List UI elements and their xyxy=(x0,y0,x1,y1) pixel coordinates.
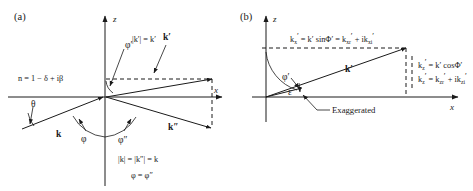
eq-kx-plus: + ik xyxy=(353,35,369,44)
panel-a-label: (a) xyxy=(14,11,26,23)
eq-kx-prime3: ′ xyxy=(372,32,374,41)
panel-a-phi-double-prime-arc xyxy=(105,117,136,137)
panel-a-reflected-ray xyxy=(106,97,211,128)
panel-a-phi-arc xyxy=(73,116,105,137)
panel-b-phi-prime-arc xyxy=(266,52,297,90)
eq-kx-mid: = k′ sinΦ′ = k xyxy=(299,35,347,44)
panel-a-reflected-vector-label: k″ xyxy=(168,122,179,132)
svg-text:kz′ = k′ cosΦ′: kz′ = k′ cosΦ′ xyxy=(418,58,462,71)
panel-a-note-k-magnitude: |k| = |k″| = k xyxy=(118,155,159,164)
panel-a-x-axis-label: x xyxy=(213,85,218,95)
panel-b-kprime-label: k′ xyxy=(345,64,353,74)
panel-b-exaggerated-label: Exaggerated xyxy=(332,105,376,115)
panel-a-z-axis-label: z xyxy=(112,14,117,24)
panel-b-x-axis-label: x xyxy=(449,102,454,112)
panel-a-theta-label: θ xyxy=(31,99,36,109)
panel-a-refractive-index-label: n = 1 − δ + iβ xyxy=(18,74,63,83)
panel-a-refracted-vector-label: k′ xyxy=(163,32,171,42)
panel-b-epsilon-ray xyxy=(266,88,302,97)
panel-a-phi-label: φ xyxy=(81,134,87,144)
panel-b-label: (b) xyxy=(240,11,253,23)
panel-a: (a) z x n = 1 − δ + iβ k θ k′ xyxy=(8,11,222,186)
panel-a-note-kprime-magnitude: |k′| = k′ xyxy=(132,35,156,44)
panel-a-incident-vector-label: k xyxy=(56,129,62,139)
panel-b-phi-prime-label: φ′ xyxy=(282,72,290,82)
figure-container: (a) z x n = 1 − δ + iβ k θ k′ xyxy=(0,0,473,191)
panel-a-theta-leader xyxy=(30,107,33,124)
eq-kz2-prime3: ′ xyxy=(465,72,467,81)
panel-b-eq-kz-1: kz′ = k′ cosΦ′ xyxy=(418,58,462,71)
panel-b-eq-kx: kx′ = k′ sinΦ′ = kxr′ + ikxi′ xyxy=(290,32,374,45)
figure-svg: (a) z x n = 1 − δ + iβ k θ k′ xyxy=(0,0,473,191)
panel-a-note-angle-equality: φ = φ″ xyxy=(131,171,153,180)
panel-b-epsilon-label: ε xyxy=(288,87,292,97)
eq-kz2-mid: = k xyxy=(426,75,440,84)
panel-b: (b) z x k′ φ′ ε Exagger xyxy=(240,11,467,122)
panel-a-phi-prime-arc xyxy=(106,81,113,93)
panel-a-refracted-ray xyxy=(106,79,212,97)
panel-b-epsilon-arrow xyxy=(299,83,300,92)
eq-kz2-plus: + ik xyxy=(446,75,462,84)
panel-b-eq-kz-2: kz′ = kzr′ + ikzi′ xyxy=(418,72,467,85)
svg-text:kx′ = k′ sinΦ′ = kxr′ + ikxi′: kx′ = k′ sinΦ′ = kxr′ + ikxi′ xyxy=(290,32,374,45)
panel-a-phi-double-prime-label: φ″ xyxy=(118,135,127,145)
svg-text:kz′ = kzr′ + ikzi′: kz′ = kzr′ + ikzi′ xyxy=(418,72,467,85)
panel-a-kprime-leader xyxy=(154,45,166,73)
eq-kz1-rest: = k′ cosΦ′ xyxy=(426,61,462,70)
panel-a-phi-prime-leader xyxy=(110,49,124,86)
panel-b-z-axis-label: z xyxy=(272,14,277,24)
